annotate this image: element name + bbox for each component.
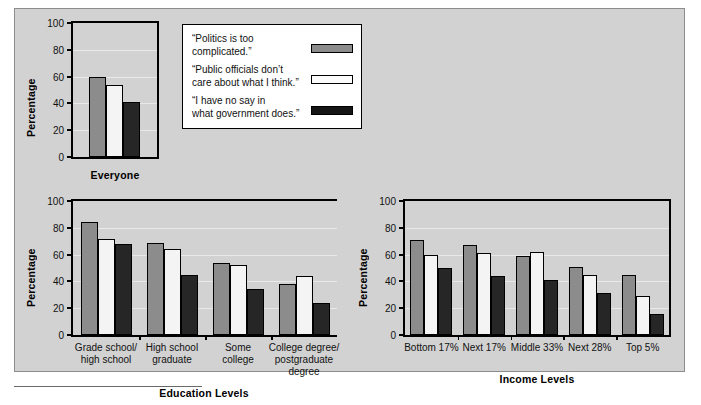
y-axis-tick [399, 200, 405, 202]
legend-item-0: “Politics is too complicated.” [192, 33, 353, 58]
white-swatch-icon [311, 75, 353, 84]
y-axis-tick [399, 334, 405, 336]
bar [477, 253, 491, 335]
x-axis-tick [139, 335, 141, 340]
y-axis-tick [67, 200, 73, 202]
bar [313, 303, 330, 335]
y-axis-title-income: Percentage [357, 217, 369, 307]
gridline [73, 228, 337, 229]
x-axis-title-income: Income Levels [403, 373, 671, 385]
chart-income-levels: Percentage 020406080100Bottom 17%Next 17… [345, 187, 686, 373]
gridline [73, 77, 157, 78]
bar [89, 77, 106, 157]
x-axis-tick [205, 335, 207, 340]
y-axis-tick-label: 40 [385, 276, 396, 287]
y-axis-tick-label: 20 [385, 303, 396, 314]
plot-area-education: 020406080100Grade school/ high schoolHig… [71, 199, 337, 337]
y-axis-tick [67, 307, 73, 309]
y-axis-tick [67, 49, 73, 51]
legend-label-2: “I have no say in what government does.” [192, 95, 299, 120]
y-axis-tick-label: 60 [53, 249, 64, 260]
y-axis-tick [67, 76, 73, 78]
y-axis-tick-label: 0 [390, 330, 396, 341]
bar [597, 293, 611, 335]
bar [230, 265, 247, 335]
legend-item-2: “I have no say in what government does.” [192, 95, 353, 120]
y-axis-tick-label: 100 [47, 196, 64, 207]
y-axis-tick [67, 129, 73, 131]
y-axis-tick [399, 307, 405, 309]
x-axis-tick [616, 335, 618, 340]
bar [650, 314, 664, 335]
y-axis-tick [67, 156, 73, 158]
y-axis-tick-label: 80 [53, 44, 64, 55]
y-axis-tick-label: 80 [53, 222, 64, 233]
bar [106, 85, 123, 157]
y-axis-tick [67, 22, 73, 24]
bar [569, 267, 583, 335]
bar [213, 263, 230, 335]
legend-label-0: “Politics is too complicated.” [192, 33, 254, 58]
bar [438, 268, 452, 335]
bar [279, 284, 296, 335]
y-axis-tick-label: 20 [53, 303, 64, 314]
bar [164, 249, 181, 335]
y-axis-tick-label: 60 [53, 71, 64, 82]
bar [491, 276, 505, 335]
bar [463, 245, 477, 335]
bar [296, 276, 313, 335]
y-axis-tick [399, 227, 405, 229]
y-axis-tick-label: 100 [47, 18, 64, 29]
bar [81, 222, 98, 335]
bar [247, 289, 264, 335]
x-axis-tick [458, 335, 460, 340]
chart-education-levels: Percentage 020406080100Grade school/ hig… [15, 187, 345, 373]
x-axis-tick [511, 335, 513, 340]
y-axis-title-education: Percentage [25, 217, 37, 307]
x-axis-title-education: Education Levels [71, 387, 337, 399]
plot-area-income: 020406080100Bottom 17%Next 17%Middle 33%… [403, 199, 671, 337]
y-axis-title-everyone: Percentage [25, 47, 37, 137]
bar [181, 275, 198, 335]
caption-separator-rule [14, 386, 202, 387]
bar [516, 256, 530, 335]
x-axis-title-everyone: Everyone [71, 169, 159, 181]
legend-label-1: “Public officials don’t care about what … [192, 64, 299, 89]
bar [115, 244, 132, 335]
legend: “Politics is too complicated.” “Public o… [182, 24, 362, 129]
plot-area-everyone: 020406080100 [71, 21, 159, 159]
y-axis-tick [67, 227, 73, 229]
legend-item-1: “Public officials don’t care about what … [192, 64, 353, 89]
black-swatch-icon [311, 106, 353, 115]
y-axis-tick [399, 280, 405, 282]
bar [544, 280, 558, 335]
figure-panel: Percentage 020406080100 Everyone “Politi… [14, 8, 685, 372]
x-axis-tick [563, 335, 565, 340]
bar [424, 255, 438, 335]
bar [530, 252, 544, 335]
y-axis-tick-label: 40 [53, 276, 64, 287]
bar [636, 296, 650, 335]
gridline [73, 50, 157, 51]
gray-swatch-icon [311, 44, 353, 53]
y-axis-tick-label: 20 [53, 125, 64, 136]
chart-everyone: Percentage 020406080100 Everyone [15, 9, 175, 187]
bar [622, 275, 636, 335]
y-axis-tick-label: 100 [379, 196, 396, 207]
y-axis-tick [67, 102, 73, 104]
y-axis-tick-label: 0 [58, 152, 64, 163]
x-axis-tick [271, 335, 273, 340]
bar [123, 102, 140, 157]
y-axis-tick-label: 60 [385, 249, 396, 260]
y-axis-tick-label: 0 [58, 330, 64, 341]
x-axis-tick-label: Top 5% [609, 342, 676, 354]
y-axis-tick [67, 280, 73, 282]
bar [410, 240, 424, 335]
bar [583, 275, 597, 335]
y-axis-tick-label: 40 [53, 98, 64, 109]
y-axis-tick [399, 254, 405, 256]
y-axis-tick [67, 254, 73, 256]
y-axis-tick-label: 80 [385, 222, 396, 233]
bar [147, 243, 164, 335]
x-axis-tick-label: College degree/ postgraduate degree [264, 342, 344, 378]
